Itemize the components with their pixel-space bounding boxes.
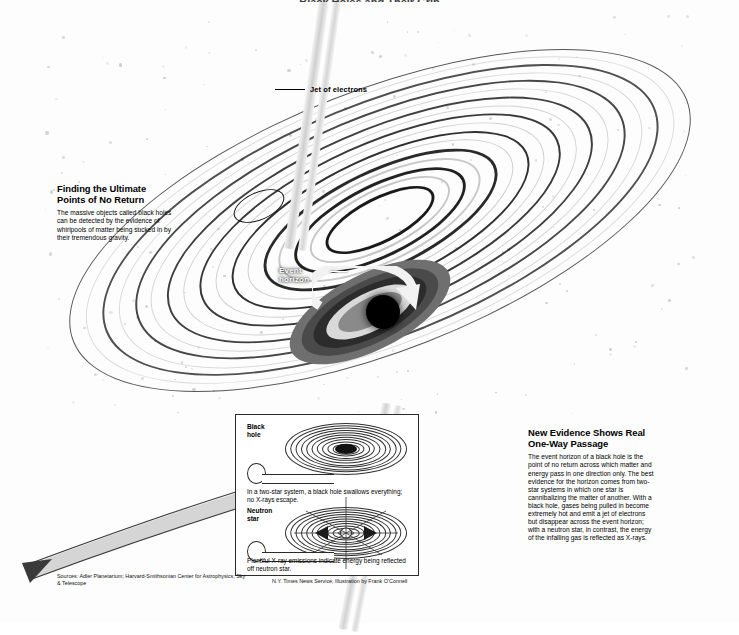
event-horizon-leader-line <box>330 271 348 272</box>
byline-credit: N.Y. Times News Service; Illustration by… <box>272 578 472 585</box>
star-speck <box>47 66 49 68</box>
star-speck <box>45 131 48 134</box>
star-speck <box>47 348 49 350</box>
right-caption-body: The event horizon of a black hole is the… <box>528 453 654 542</box>
event-horizon-line1: Event <box>279 266 302 275</box>
jet-label: Jet of electrons <box>310 85 367 94</box>
rotation-arrow-icon <box>312 266 432 336</box>
foreground-sweep-arrow <box>18 455 258 585</box>
right-caption-title: New Evidence Shows Real One-Way Passage <box>528 427 654 450</box>
sources-credit: Sources: Adler Planetarium; Harvard-Smit… <box>57 573 247 586</box>
inset-black-hole-disk <box>284 421 408 477</box>
inset-black-hole-core <box>335 444 357 454</box>
star-speck <box>50 190 53 193</box>
inset-caption-1: In a two-star system, a black hole swall… <box>247 488 407 504</box>
star-speck <box>45 209 46 210</box>
figure-top-title: Black Holes and Their Grip <box>0 0 739 2</box>
event-horizon-label: Eventhorizon <box>279 266 309 284</box>
inset-black-hole-label: Blackhole <box>247 423 265 438</box>
left-caption-title: Finding the Ultimate Points of No Return <box>57 183 175 206</box>
event-horizon-line2: horizon <box>279 275 309 284</box>
left-caption-body: The massive objects called black holes c… <box>57 209 175 241</box>
right-caption-block: New Evidence Shows Real One-Way Passage … <box>528 427 654 542</box>
left-caption-block: Finding the Ultimate Points of No Return… <box>57 183 175 242</box>
jet-label-leader-line <box>275 89 305 90</box>
inset-caption-2: Plentiful X-ray emissions indicate energ… <box>247 557 407 573</box>
star-speck <box>49 252 52 255</box>
inset-neutron-star-label: Neutronstar <box>247 507 272 522</box>
comparison-inset-panel: Blackhole In a two-star system, a black … <box>235 414 419 576</box>
